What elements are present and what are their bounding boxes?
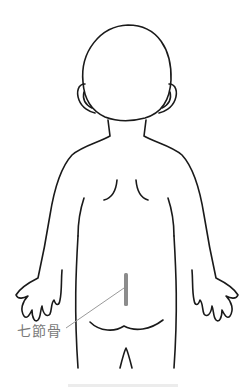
right-torso [174, 236, 176, 368]
head-outline [83, 25, 171, 121]
buttocks-curve [90, 320, 163, 330]
left-scapula [104, 180, 117, 200]
acupoint-marker [124, 273, 128, 306]
leader-line [66, 288, 124, 328]
left-inner-arm [78, 198, 84, 236]
footer-bar [68, 384, 178, 387]
buttocks-crease [120, 348, 132, 368]
left-side-outline [16, 120, 110, 321]
right-side-outline [144, 120, 238, 321]
right-scapula [136, 180, 148, 200]
left-torso [76, 236, 78, 368]
right-inner-arm [168, 198, 174, 236]
acupoint-label: 七節骨 [17, 320, 62, 340]
